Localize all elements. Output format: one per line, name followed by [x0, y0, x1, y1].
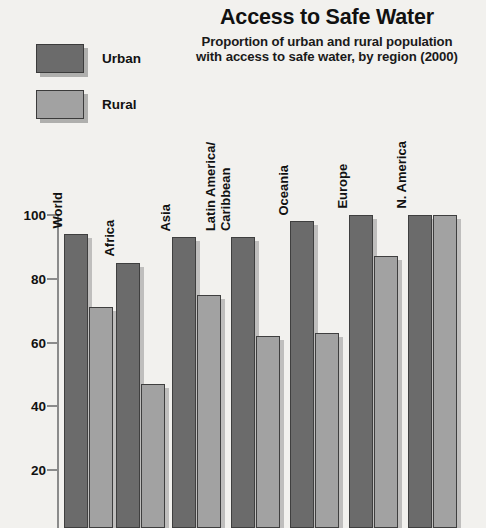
bar-group: N. America: [408, 150, 463, 528]
bar-urban: [172, 237, 196, 528]
y-axis-label-100: 100: [0, 208, 46, 223]
bar-rural: [256, 336, 280, 528]
category-label: World: [51, 192, 66, 229]
category-label: N. America: [395, 142, 410, 209]
bar-urban: [64, 234, 88, 528]
bar-rural: [374, 256, 398, 528]
bar-urban: [116, 263, 140, 528]
category-label: Europe: [336, 164, 351, 209]
y-axis-tick-60: [47, 342, 59, 344]
bar-rural: [89, 307, 113, 528]
y-axis-label-20: 20: [0, 463, 46, 478]
category-label: Africa: [103, 220, 118, 257]
y-axis-tick-80: [47, 278, 59, 280]
category-label: Latin America/Caribbean: [204, 111, 233, 231]
bar-urban: [349, 215, 373, 528]
bars-area: WorldAfricaAsiaLatin America/CaribbeanOc…: [59, 150, 486, 528]
bar-urban: [408, 215, 432, 528]
bar-urban: [290, 221, 314, 528]
y-axis-label-60: 60: [0, 335, 46, 350]
bar-rural: [197, 295, 221, 528]
bar-urban: [231, 237, 255, 528]
plot-area: 20406080100 WorldAfricaAsiaLatin America…: [0, 0, 486, 528]
bar-group: World: [64, 150, 119, 528]
category-label: Oceania: [277, 165, 292, 216]
category-label: Asia: [159, 204, 174, 231]
y-axis-tick-20: [47, 469, 59, 471]
bar-rural: [433, 215, 457, 528]
chart-page: Access to Safe Water Proportion of urban…: [0, 0, 486, 528]
bar-rural: [141, 384, 165, 528]
bar-rural: [315, 333, 339, 528]
y-axis-tick-40: [47, 405, 59, 407]
y-axis-label-40: 40: [0, 399, 46, 414]
y-axis-label-80: 80: [0, 271, 46, 286]
